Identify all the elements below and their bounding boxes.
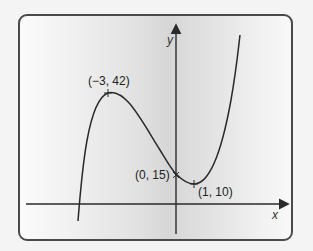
y-axis-label: y <box>167 33 173 47</box>
max-point-marker <box>104 89 112 97</box>
chart-plot <box>0 0 313 251</box>
yint-point-label: (0, 15) <box>135 168 170 182</box>
min-point-label: (1, 10) <box>198 185 233 199</box>
max-point-label: (−3, 42) <box>88 74 130 88</box>
min-point-marker <box>190 180 198 188</box>
x-axis-label: x <box>272 208 278 222</box>
